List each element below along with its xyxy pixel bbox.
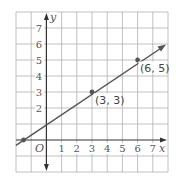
- x-tick-6: 6: [134, 143, 140, 154]
- x-tick-4: 4: [104, 143, 110, 154]
- y-axis-arrow-down-icon: [44, 164, 49, 171]
- x-tick-7: 7: [150, 143, 156, 154]
- coordinate-plane: 1 2 3 4 5 6 7 O 2 3 4 5 6 7 y x: [0, 0, 176, 180]
- y-tick-3: 3: [36, 87, 42, 98]
- x-axis-label: x: [159, 142, 166, 155]
- y-tick-7: 7: [36, 23, 42, 34]
- point-label-6-5: (6, 5): [140, 62, 170, 75]
- x-tick-2: 2: [74, 143, 80, 154]
- y-tick-2: 2: [36, 103, 42, 114]
- y-tick-5: 5: [36, 55, 42, 66]
- y-tick-labels: 2 3 4 5 6 7: [35, 23, 44, 115]
- point-label-3-3: (3, 3): [95, 94, 125, 107]
- point-x-intercept: [21, 138, 26, 143]
- x-tick-labels: 1 2 3 4 5 6 7 O: [35, 142, 157, 155]
- y-tick-4: 4: [36, 71, 42, 82]
- x-tick-3: 3: [89, 143, 95, 154]
- x-tick-5: 5: [119, 143, 125, 154]
- y-tick-6: 6: [36, 39, 42, 50]
- origin-label: O: [35, 142, 44, 155]
- x-tick-1: 1: [58, 143, 64, 154]
- y-axis-label: y: [49, 11, 57, 24]
- y-axis-arrow-up-icon: [44, 13, 49, 20]
